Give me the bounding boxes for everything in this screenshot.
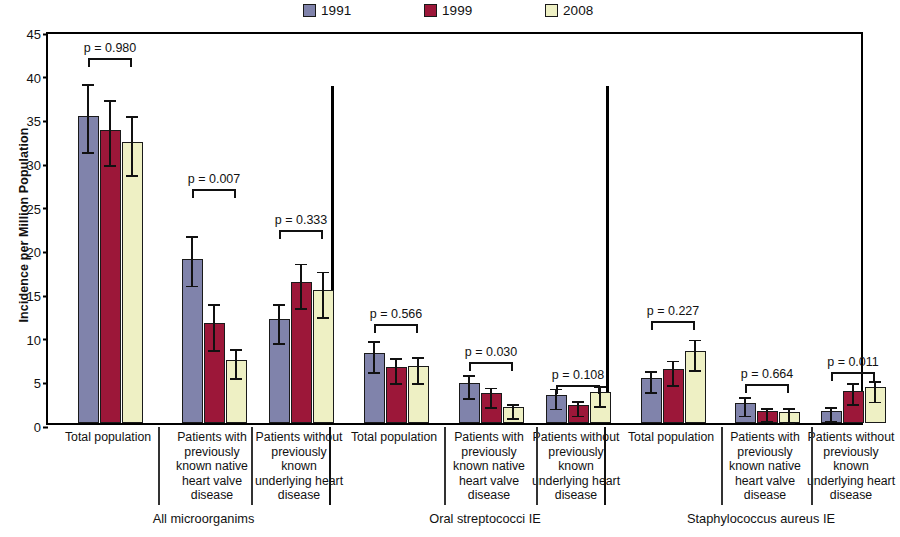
error-bar-cap-lower: [390, 383, 402, 385]
error-bar: [213, 304, 215, 350]
group-label: All microorganims: [54, 511, 354, 526]
bracket-tick-right: [787, 384, 789, 393]
y-tick-15: 15: [27, 289, 48, 304]
y-tick-25: 25: [27, 201, 48, 216]
bracket-tick-right: [416, 324, 418, 333]
error-bar-cap-lower: [689, 370, 701, 372]
bar: [78, 116, 99, 423]
error-bar-cap-upper: [463, 375, 475, 377]
y-tick-30: 30: [27, 158, 48, 173]
error-bar-cap-lower: [208, 350, 220, 352]
subgroup-label-line: heart valve: [719, 474, 811, 489]
subgroup-label-line: previously: [803, 445, 899, 460]
plot-area: 051015202530354045p = 0.980p = 0.007p = …: [46, 32, 863, 425]
subgroup-label-line: previously: [166, 445, 258, 460]
error-bar-cap-upper: [368, 341, 380, 343]
bracket-tick-right: [598, 385, 600, 394]
error-bar-cap-lower: [645, 392, 657, 394]
error-bar-cap-upper: [317, 272, 329, 274]
error-bar-cap-upper: [645, 371, 657, 373]
subgroup-label-line: previously: [528, 445, 624, 460]
error-bar-cap-upper: [825, 407, 837, 409]
bracket-line: [374, 324, 418, 326]
bracket-tick-right: [130, 58, 132, 67]
bracket-line: [88, 58, 132, 60]
subgroup-label-line: known: [251, 459, 347, 474]
bracket-tick-left: [374, 324, 376, 333]
subgroup-label-line: disease: [719, 488, 811, 503]
error-bar-cap-upper: [783, 408, 795, 410]
error-bar-cap-lower: [550, 409, 562, 411]
subgroup-label-line: Patients with: [719, 430, 811, 445]
subgroup-label: Total population: [62, 430, 154, 445]
subgroup-label: Patients withpreviouslyknown nativeheart…: [443, 430, 535, 503]
p-value-label: p = 0.108: [552, 368, 604, 382]
subgroup-separator: [536, 427, 538, 505]
subgroup-label-line: Patients without: [251, 430, 347, 445]
subgroup-label-line: known: [528, 459, 624, 474]
subgroup-separator: [158, 427, 160, 505]
subgroup-label-line: known: [803, 459, 899, 474]
error-bar-cap-upper: [667, 361, 679, 363]
subgroup-label-line: Total population: [62, 430, 154, 445]
y-tick-5: 5: [34, 376, 48, 391]
error-bar: [395, 358, 397, 383]
subgroup-separator: [721, 427, 723, 505]
subgroup-label-line: underlying heart: [251, 474, 347, 489]
error-bar-cap-lower: [594, 406, 606, 408]
error-bar: [744, 397, 746, 415]
bracket-tick-right: [873, 372, 875, 381]
subgroup-label: Patients withpreviouslyknown nativeheart…: [719, 430, 811, 503]
error-bar-cap-upper: [761, 408, 773, 410]
bracket-tick-right: [511, 362, 513, 371]
bracket-tick-left: [651, 321, 653, 330]
subgroup-label-line: disease: [251, 488, 347, 503]
error-bar: [852, 383, 854, 404]
error-bar-cap-lower: [463, 398, 475, 400]
bracket-tick-left: [469, 362, 471, 371]
subgroup-label: Patients withoutpreviouslyknownunderlyin…: [251, 430, 347, 503]
p-value-label: p = 0.333: [275, 213, 327, 227]
bar: [100, 130, 121, 423]
p-value-label: p = 0.664: [741, 367, 793, 381]
bracket-line: [831, 372, 875, 374]
chart-legend: 199119992008: [0, 4, 867, 26]
error-bar-cap-upper: [104, 100, 116, 102]
error-bar: [766, 408, 768, 421]
p-value-label: p = 0.011: [827, 355, 879, 369]
bracket-tick-left: [831, 372, 833, 381]
p-value-label: p = 0.227: [647, 304, 699, 318]
error-bar: [694, 340, 696, 371]
p-value-label: p = 0.007: [188, 172, 240, 186]
error-bar: [830, 407, 832, 421]
subgroup-label-line: Patients without: [803, 430, 899, 445]
error-bar-cap-upper: [689, 340, 701, 342]
subgroup-label-line: Total population: [348, 430, 440, 445]
error-bar-cap-upper: [295, 264, 307, 266]
subgroup-label-line: underlying heart: [528, 474, 624, 489]
error-bar: [373, 341, 375, 372]
bracket-line: [745, 384, 789, 386]
p-value-label: p = 0.030: [465, 345, 517, 359]
bracket-line: [651, 321, 695, 323]
subgroup-label-line: known native: [443, 459, 535, 474]
error-bar-cap-lower: [104, 165, 116, 167]
subgroup-label-line: underlying heart: [803, 474, 899, 489]
error-bar: [874, 381, 876, 402]
error-bar: [191, 236, 193, 286]
legend-swatch-1991: [303, 4, 316, 17]
error-bar-cap-lower: [317, 317, 329, 319]
error-bar-cap-lower: [273, 343, 285, 345]
x-axis-labels: Total populationPatients withpreviouslyk…: [46, 427, 863, 537]
legend-label-1991: 1991: [321, 4, 351, 18]
subgroup-separator: [251, 427, 253, 505]
bar: [122, 142, 143, 423]
legend-swatch-2008: [545, 4, 558, 17]
y-tick-20: 20: [27, 245, 48, 260]
subgroup-label-line: disease: [803, 488, 899, 503]
subgroup-separator: [811, 427, 813, 505]
error-bar-cap-lower: [507, 418, 519, 420]
subgroup-label-line: Patients with: [166, 430, 258, 445]
group-label: Oral streptococci IE: [335, 511, 635, 526]
error-bar-cap-upper: [847, 383, 859, 385]
